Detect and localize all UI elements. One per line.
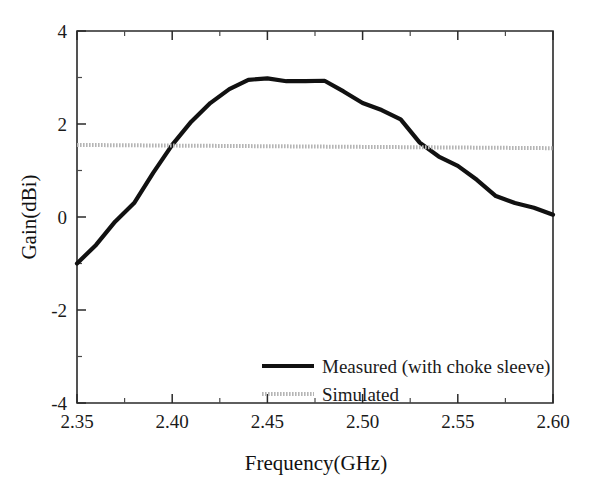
y-tick-label: -2 <box>51 300 67 321</box>
y-tick-label: 0 <box>58 207 68 228</box>
y-tick-label: -4 <box>51 393 67 414</box>
gain-vs-frequency-chart: 2.352.402.452.502.552.60 420-2-4 Measure… <box>0 0 598 500</box>
x-tick-label: 2.60 <box>536 411 569 432</box>
x-tick-label: 2.50 <box>346 411 379 432</box>
x-tick-label: 2.45 <box>251 411 284 432</box>
x-tick-label: 2.35 <box>60 411 93 432</box>
y-axis-title: Gain(dBi) <box>17 174 41 259</box>
legend-label: Measured (with choke sleeve) <box>322 356 550 378</box>
x-tick-label: 2.55 <box>441 411 474 432</box>
chart-page: 2.352.402.452.502.552.60 420-2-4 Measure… <box>0 0 598 500</box>
x-axis-title: Frequency(GHz) <box>245 451 387 475</box>
y-tick-label: 4 <box>58 21 68 42</box>
y-tick-label: 2 <box>58 114 68 135</box>
x-tick-label: 2.40 <box>156 411 189 432</box>
legend-label: Simulated <box>322 384 400 405</box>
